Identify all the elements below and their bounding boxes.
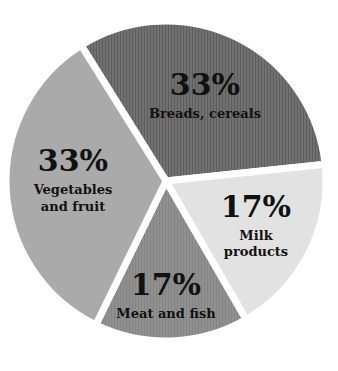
category-label: Milk <box>239 228 273 243</box>
value-label: 17% <box>221 189 291 224</box>
category-label: Vegetables <box>33 182 113 197</box>
value-label: 17% <box>131 267 201 302</box>
category-label: Meat and fish <box>116 306 216 321</box>
value-label: 33% <box>38 143 108 178</box>
value-label: 33% <box>170 67 240 102</box>
category-label: products <box>224 244 288 259</box>
category-label: Breads, cereals <box>149 106 261 121</box>
pie-chart: 33% Breads, cereals 17% Milk products 17… <box>0 0 338 371</box>
category-label: and fruit <box>41 199 105 214</box>
